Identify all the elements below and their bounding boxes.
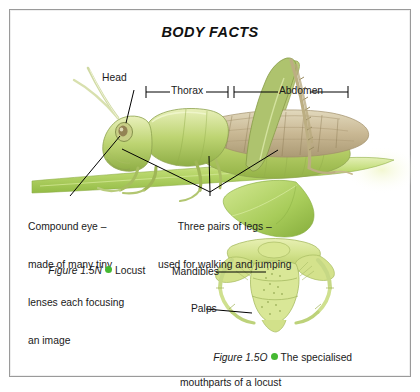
caption-locust-number: Figure 1.5N: [48, 265, 102, 276]
label-mandibles: Mandibles: [172, 266, 219, 279]
label-thorax: Thorax: [171, 85, 203, 98]
green-bullet-icon: [105, 266, 112, 273]
compound-eye-line-4: an image: [28, 335, 124, 348]
compound-eye-line-3: lenses each focusing: [28, 297, 124, 310]
label-legs: Three pairs of legs – used for walking a…: [158, 196, 291, 297]
locust-thorax: [144, 108, 228, 166]
caption-locust-text: Locust: [115, 265, 145, 276]
caption-mouthparts-text-1: The specialised: [281, 352, 353, 363]
body-facts-panel: BODY FACTS: [9, 9, 411, 377]
label-palps: Palps: [191, 303, 217, 316]
label-abdomen: Abdomen: [279, 85, 323, 98]
caption-mouthparts: Figure 1.5OThe specialised mouthparts of…: [196, 339, 352, 392]
caption-mouthparts-text-2: mouthparts of a locust: [180, 377, 352, 390]
caption-mouthparts-number: Figure 1.5O: [213, 352, 267, 363]
green-bullet-icon-2: [271, 353, 278, 360]
label-head: Head: [102, 72, 127, 85]
legs-line-1: Three pairs of legs –: [158, 221, 291, 234]
compound-eye-line-1: Compound eye –: [28, 221, 124, 234]
caption-locust: Figure 1.5NLocust: [31, 252, 145, 290]
locust-head: [103, 116, 152, 171]
